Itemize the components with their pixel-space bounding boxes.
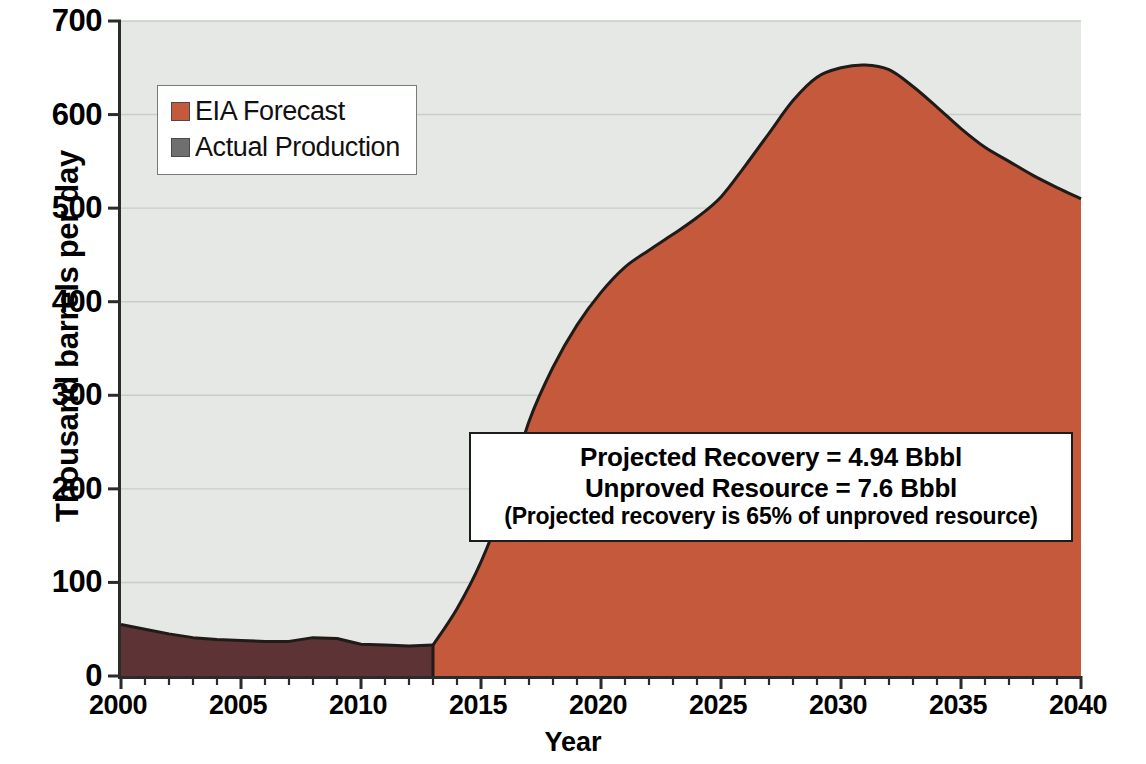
annotation-line-percent-note: (Projected recovery is 65% of unproved r… [477, 503, 1065, 530]
legend-item-actual-production[interactable]: Actual Production [171, 129, 400, 165]
x-tick-label-2025: 2025 [648, 690, 788, 721]
x-tick-label-2005: 2005 [168, 690, 308, 721]
y-tick-label-400: 400 [0, 284, 102, 320]
projection-summary-callout: Projected Recovery = 4.94 Bbbl Unproved … [469, 432, 1073, 542]
annotation-line-projected-recovery: Projected Recovery = 4.94 Bbbl [477, 442, 1065, 473]
x-tick-label-2010: 2010 [288, 690, 428, 721]
y-tick-label-300: 300 [0, 377, 102, 413]
chart-legend: EIA Forecast Actual Production [157, 85, 417, 175]
x-tick-label-2020: 2020 [528, 690, 668, 721]
x-tick-label-2035: 2035 [888, 690, 1028, 721]
x-tick-label-2000: 2000 [48, 690, 188, 721]
x-tick-label-2040: 2040 [1008, 690, 1146, 721]
chart-figure: Thousand barrels per day 010020030040050… [0, 0, 1146, 764]
y-tick-label-100: 100 [0, 564, 102, 600]
legend-swatch-eia-forecast [171, 102, 190, 121]
y-tick-label-600: 600 [0, 97, 102, 133]
y-tick-label-500: 500 [0, 190, 102, 226]
x-tick-label-2015: 2015 [408, 690, 548, 721]
y-tick-label-700: 700 [0, 3, 102, 39]
legend-label-actual-production: Actual Production [195, 132, 400, 163]
x-tick-label-2030: 2030 [768, 690, 908, 721]
legend-item-eia-forecast[interactable]: EIA Forecast [171, 93, 400, 129]
y-tick-label-200: 200 [0, 471, 102, 507]
annotation-line-unproved-resource: Unproved Resource = 7.6 Bbbl [477, 473, 1065, 504]
y-tick-label-0: 0 [0, 658, 102, 694]
legend-swatch-actual-production [171, 138, 190, 157]
x-axis-title: Year [0, 727, 1146, 758]
y-axis-title: Thousand barrels per day [50, 56, 86, 616]
legend-label-eia-forecast: EIA Forecast [195, 96, 345, 127]
